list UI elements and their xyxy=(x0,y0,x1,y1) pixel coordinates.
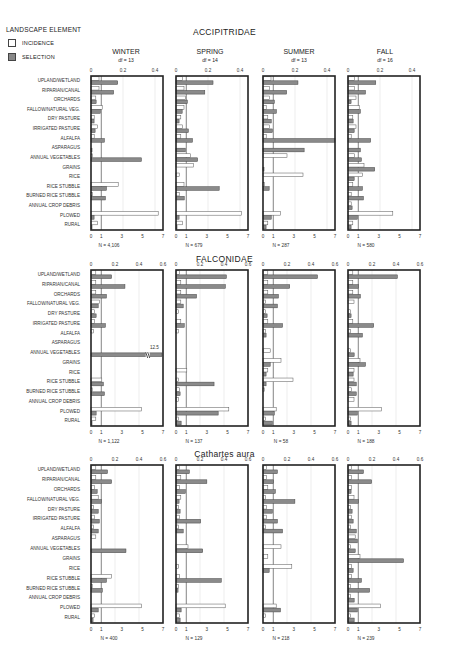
sample-size-label: N = 400 xyxy=(101,636,118,641)
category-label: RICE STUBBLE xyxy=(47,576,80,581)
top-tick-label: 0.2 xyxy=(205,68,212,73)
selection-bar xyxy=(176,519,201,523)
category-label: ANNUAL VEGETABLES xyxy=(30,546,80,551)
top-tick-label: 0.2 xyxy=(197,262,204,267)
category-label: DRY PASTURE xyxy=(48,507,80,512)
selection-bar xyxy=(348,196,363,200)
incidence-bar xyxy=(348,154,354,158)
top-tick-label: 0 xyxy=(347,457,350,462)
bottom-tick-label: 3 xyxy=(378,430,381,435)
incidence-bar xyxy=(263,349,270,353)
incidence-bar xyxy=(176,154,190,158)
selection-bar xyxy=(91,139,104,143)
category-label: UPLAND/WETLAND xyxy=(38,272,81,277)
panel-frame xyxy=(91,76,163,230)
category-label: FALLOW/NATURAL VEG. xyxy=(27,301,80,306)
selection-bar xyxy=(348,598,354,602)
bottom-tick-label: 7 xyxy=(162,430,165,435)
bottom-tick-label: 7 xyxy=(162,627,165,632)
bottom-tick-label: 1 xyxy=(100,234,103,239)
top-tick-label: 0.2 xyxy=(120,68,127,73)
incidence-bar xyxy=(348,106,359,110)
category-label: RURAL xyxy=(64,222,80,227)
top-tick-label: 0.4 xyxy=(136,262,143,267)
selection-bar xyxy=(91,285,125,289)
top-tick-label: 0.4 xyxy=(324,68,331,73)
incidence-bar xyxy=(91,106,102,110)
selection-bar xyxy=(348,353,354,357)
incidence-bar xyxy=(263,378,293,382)
bottom-tick-label: 1 xyxy=(100,430,103,435)
incidence-bar xyxy=(263,565,292,569)
selection-bar xyxy=(263,294,278,298)
incidence-bar xyxy=(263,86,269,90)
selection-bar xyxy=(263,363,270,367)
incidence-bar xyxy=(91,495,98,499)
top-tick-label: 0 xyxy=(175,262,178,267)
incidence-bar xyxy=(176,368,187,372)
category-label: RICE xyxy=(69,174,80,179)
panel-frame xyxy=(91,465,163,623)
bottom-tick-label: 7 xyxy=(334,627,337,632)
incidence-bar xyxy=(263,545,281,549)
panel-frame xyxy=(263,465,335,623)
bottom-tick-label: 0 xyxy=(90,430,93,435)
category-label: IRRIGATED PASTURE xyxy=(33,516,80,521)
category-label: ASPARAGUS xyxy=(52,145,80,150)
category-label: RIPARIAN/CANAL xyxy=(42,88,80,93)
top-tick-label: 0.2 xyxy=(284,457,291,462)
selection-bar xyxy=(348,216,357,220)
bottom-tick-label: 1 xyxy=(272,234,275,239)
incidence-bar xyxy=(348,125,356,129)
selection-bar xyxy=(263,490,275,494)
bottom-tick-label: 1 xyxy=(272,430,275,435)
incidence-bar xyxy=(263,77,271,81)
selection-bar xyxy=(176,490,185,494)
selection-bar xyxy=(176,529,183,533)
category-label: ASPARAGUS xyxy=(52,536,80,541)
incidence-bar xyxy=(263,359,281,363)
top-tick-label: 0.6 xyxy=(332,262,339,267)
top-tick-label: 0.4 xyxy=(237,68,244,73)
incidence-bar xyxy=(263,212,281,216)
selection-bar xyxy=(348,579,361,583)
incidence-bar xyxy=(91,604,141,608)
bottom-tick-label: 0 xyxy=(90,627,93,632)
category-label: ANNUAL VEGETABLES xyxy=(30,155,80,160)
top-tick-label: 0 xyxy=(262,262,265,267)
category-label: RICE xyxy=(69,370,80,375)
incidence-bar xyxy=(91,212,158,216)
bottom-tick-label: 7 xyxy=(334,430,337,435)
bottom-tick-label: 5 xyxy=(313,234,316,239)
top-tick-label: 0.6 xyxy=(417,457,424,462)
incidence-bar xyxy=(263,154,287,158)
selection-bar xyxy=(263,187,269,191)
bottom-tick-label: 0 xyxy=(347,627,350,632)
bottom-tick-label: 1 xyxy=(185,627,188,632)
incidence-bar xyxy=(176,106,184,110)
incidence-bar xyxy=(91,378,102,382)
bottom-tick-label: 5 xyxy=(141,234,144,239)
panel-frame xyxy=(263,76,335,230)
selection-bar xyxy=(176,158,198,162)
sample-size-label: N = 218 xyxy=(273,636,290,641)
incidence-bar xyxy=(176,125,182,129)
top-tick-label: 0 xyxy=(262,68,265,73)
selection-bar xyxy=(263,509,272,513)
panel-frame xyxy=(176,76,248,230)
bottom-tick-label: 7 xyxy=(247,234,250,239)
bottom-tick-label: 7 xyxy=(247,430,250,435)
incidence-bar xyxy=(91,86,99,90)
incidence-bar xyxy=(176,163,194,167)
top-tick-label: 0.4 xyxy=(221,262,228,267)
incidence-bar xyxy=(348,535,355,539)
incidence-bar xyxy=(348,212,393,216)
category-label: ASPARAGUS xyxy=(52,340,80,345)
category-label: BURNED RICE STUBBLE xyxy=(26,586,80,591)
selection-bar xyxy=(91,519,99,523)
incidence-bar xyxy=(348,555,360,559)
incidence-bar xyxy=(91,300,99,304)
selection-bar xyxy=(91,529,98,533)
sample-size-label: N = 4,106 xyxy=(99,243,120,248)
selection-bar xyxy=(263,608,280,612)
